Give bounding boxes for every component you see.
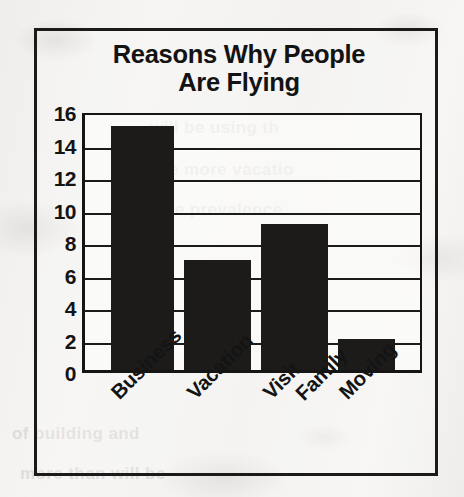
x-axis: BusinessVacationVisitFamilyMoving (34, 373, 438, 473)
bar-series (85, 115, 420, 370)
y-axis-tick-label: 12 (54, 168, 76, 189)
y-axis-tick-label: 10 (54, 200, 76, 221)
y-axis-tick-label: 16 (54, 103, 76, 124)
y-axis-tick-label: 14 (54, 135, 76, 156)
y-axis-tick-label: 4 (65, 298, 76, 319)
chart-title: Reasons Why People Are Flying (37, 41, 441, 96)
y-axis-tick-label: 8 (65, 233, 76, 254)
chart-title-line-1: Reasons Why People (113, 40, 366, 68)
scanned-page: will be using th re more vacatio p the p… (0, 0, 464, 497)
plot-area (82, 113, 422, 373)
y-axis: 0246810121416 (34, 113, 76, 373)
y-axis-tick-label: 6 (65, 265, 76, 286)
y-axis-tick-label: 2 (65, 330, 76, 351)
chart-title-line-2: Are Flying (178, 68, 300, 96)
